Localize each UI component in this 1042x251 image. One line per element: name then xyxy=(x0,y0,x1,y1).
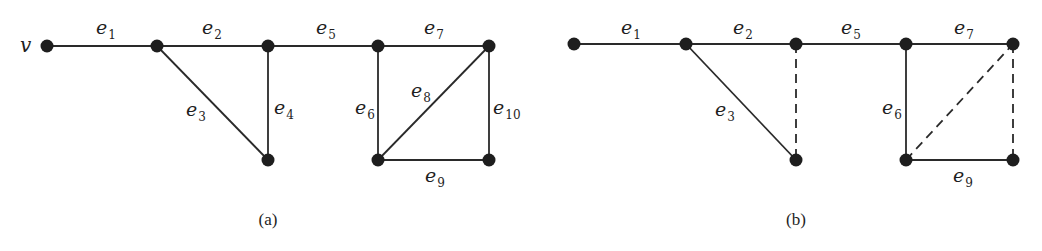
vertex-b8 xyxy=(1007,154,1020,167)
edge-label-e2: e2 xyxy=(202,16,222,42)
edge-label-e9: e9 xyxy=(953,164,973,190)
caption-a: (a) xyxy=(259,210,278,229)
vertex-n6 xyxy=(483,40,496,53)
edge-label-e3: e3 xyxy=(186,98,206,124)
edge-label-e5: e5 xyxy=(316,16,336,42)
edge-label-e1: e1 xyxy=(96,16,116,42)
vertex-b6 xyxy=(1007,38,1020,51)
vertex-n2 xyxy=(151,40,164,53)
vertex-b3 xyxy=(790,38,803,51)
panel-b-spanning-subgraph: e1e2e3e5e6e7e9(b) xyxy=(568,16,1020,229)
edge-label-e8: e8 xyxy=(411,79,431,105)
edge-label-e6: e6 xyxy=(882,96,902,122)
vertex-n5 xyxy=(372,40,385,53)
edge-label-e2: e2 xyxy=(733,16,753,42)
vertex-b2 xyxy=(680,38,693,51)
edge-e3 xyxy=(157,46,268,160)
edge-e3 xyxy=(686,44,796,160)
edge-b7-b6-dashed xyxy=(906,44,1013,160)
edge-label-e7: e7 xyxy=(954,16,974,42)
edge-label-e9: e9 xyxy=(425,164,445,190)
vertex-n7 xyxy=(372,154,385,167)
vertex-b5 xyxy=(900,38,913,51)
edge-label-e5: e5 xyxy=(841,16,861,42)
edge-label-e3: e3 xyxy=(715,98,735,124)
vertex-n4 xyxy=(262,154,275,167)
vertex-n3 xyxy=(262,40,275,53)
vertex-b1 xyxy=(568,38,581,51)
vertex-v xyxy=(41,40,54,53)
edge-label-e10: e10 xyxy=(493,96,521,122)
vertex-b4 xyxy=(790,154,803,167)
edge-label-e6: e6 xyxy=(355,96,375,122)
edge-label-e7: e7 xyxy=(424,16,444,42)
vertex-b7 xyxy=(900,154,913,167)
edge-e8 xyxy=(378,46,489,160)
edge-label-e1: e1 xyxy=(621,16,641,42)
vertex-label-v: v xyxy=(20,33,32,57)
panel-a-graph: e1e2e3e4e5e6e7e8e9e10v(a) xyxy=(20,16,521,229)
edge-label-e4: e4 xyxy=(274,96,294,122)
vertex-n8 xyxy=(483,154,496,167)
caption-b: (b) xyxy=(786,210,806,229)
graph-diagram: e1e2e3e4e5e6e7e8e9e10v(a) e1e2e3e5e6e7e9… xyxy=(0,0,1042,251)
